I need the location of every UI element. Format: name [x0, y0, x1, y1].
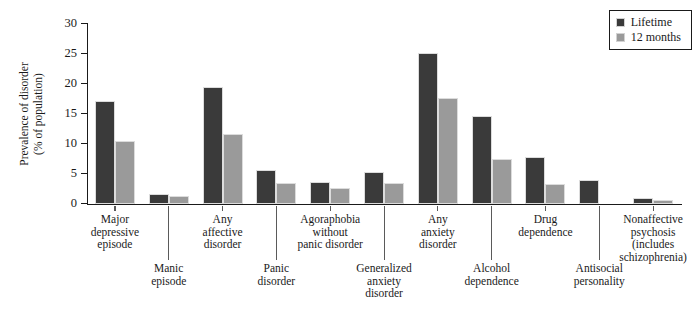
category-label-line: disorder	[203, 238, 243, 251]
category-label-line: Alcohol	[464, 262, 518, 275]
y-axis-tick-label: 15	[65, 106, 78, 121]
y-axis-title-line-2: (% of population)	[31, 62, 45, 165]
category-tick-stem	[330, 206, 331, 211]
bar-12-months	[438, 98, 458, 204]
x-axis-category-label: Nonaffectivepsychosis(includesschizophre…	[619, 213, 687, 263]
bar-group	[203, 24, 243, 204]
category-label-line: Panic	[258, 262, 296, 275]
chart-legend: Lifetime12 months	[609, 10, 692, 50]
category-tick-stem	[653, 206, 654, 211]
y-axis-tick: 0	[81, 203, 88, 204]
legend-label: Lifetime	[631, 15, 672, 30]
bar-group	[472, 24, 512, 204]
category-tick-stem	[168, 206, 169, 260]
category-label-line: Any	[203, 213, 243, 226]
legend-swatch-icon	[616, 18, 625, 27]
bar-12-months	[169, 196, 189, 204]
category-label-line: Antisocial	[574, 262, 625, 275]
bar-lifetime	[95, 101, 115, 204]
legend-item: Lifetime	[616, 15, 681, 30]
bar-lifetime	[418, 53, 438, 204]
bar-lifetime	[310, 182, 330, 204]
category-tick-stem	[222, 206, 223, 211]
category-label-line: disorder	[356, 287, 412, 300]
category-label-line: depressive	[91, 226, 140, 239]
bar-lifetime	[472, 116, 492, 204]
legend-label: 12 months	[631, 30, 681, 45]
category-label-line: (includes	[619, 238, 687, 251]
bar-lifetime	[364, 172, 384, 204]
x-axis-category-label: Generalizedanxietydisorder	[356, 262, 412, 300]
bar-lifetime	[633, 198, 653, 204]
bar-12-months	[492, 159, 512, 204]
y-axis-tick-label: 20	[65, 76, 78, 91]
y-axis-tick-label: 30	[65, 16, 78, 31]
x-axis-category-label: Antisocialpersonality	[574, 262, 625, 287]
category-tick-stem	[491, 206, 492, 260]
category-tick-stem	[276, 206, 277, 260]
category-label-line: anxiety	[419, 226, 457, 239]
category-label-line: schizophrenia)	[619, 251, 687, 264]
category-label-line: without	[297, 226, 362, 239]
bar-12-months	[276, 183, 296, 204]
legend-item: 12 months	[616, 30, 681, 45]
category-tick-stem	[384, 206, 385, 260]
y-axis-tick: 15	[81, 113, 88, 114]
category-label-line: disorder	[419, 238, 457, 251]
category-tick-stem	[114, 206, 115, 211]
x-axis-category-label: Anyanxietydisorder	[419, 213, 457, 251]
y-axis-tick: 30	[81, 23, 88, 24]
category-label-line: episode	[151, 275, 186, 288]
bar-group	[149, 24, 189, 204]
bar-12-months	[384, 183, 404, 204]
y-axis-tick: 20	[81, 83, 88, 84]
bar-group	[418, 24, 458, 204]
y-axis-title: Prevalence of disorder (% of population)	[14, 24, 48, 204]
category-label-line: Any	[419, 213, 457, 226]
bar-group	[579, 24, 619, 204]
bar-lifetime	[149, 194, 169, 204]
plot-area: 051015202530	[88, 24, 680, 204]
y-axis-tick-label: 25	[65, 46, 78, 61]
category-tick-stem	[545, 206, 546, 211]
x-axis-category-label: Alcoholdependence	[464, 262, 518, 287]
category-label-line: Drug	[518, 213, 572, 226]
y-axis-tick-label: 10	[65, 136, 78, 151]
category-label-line: panic disorder	[297, 238, 362, 251]
bar-group	[525, 24, 565, 204]
bar-12-months	[545, 184, 565, 204]
y-axis-line	[87, 24, 88, 205]
bar-group	[633, 24, 673, 204]
x-axis-category-label: Manicepisode	[151, 262, 186, 287]
bar-12-months	[223, 134, 243, 204]
bar-12-months	[330, 188, 350, 204]
legend-swatch-icon	[616, 33, 625, 42]
category-label-line: psychosis	[619, 226, 687, 239]
bar-group	[364, 24, 404, 204]
bar-12-months	[115, 141, 135, 204]
category-tick-stem	[437, 206, 438, 211]
bar-group	[95, 24, 135, 204]
category-tick-stem	[599, 206, 600, 260]
bar-lifetime	[525, 157, 545, 204]
bar-12-months	[653, 200, 673, 204]
y-axis-tick-label: 0	[71, 196, 77, 211]
y-axis-tick: 5	[81, 173, 88, 174]
category-label-line: disorder	[258, 275, 296, 288]
category-label-line: affective	[203, 226, 243, 239]
prevalence-of-disorder-bar-chart: Prevalence of disorder (% of population)…	[0, 0, 700, 330]
category-label-line: Agoraphobia	[297, 213, 362, 226]
y-axis-tick: 25	[81, 53, 88, 54]
x-axis-category-label: Agoraphobiawithoutpanic disorder	[297, 213, 362, 251]
bar-lifetime	[256, 170, 276, 204]
category-label-line: personality	[574, 275, 625, 288]
bar-lifetime	[203, 87, 223, 204]
y-axis-tick-label: 5	[71, 166, 77, 181]
category-label-line: Nonaffective	[619, 213, 687, 226]
category-label-line: Generalized	[356, 262, 412, 275]
x-axis-category-label: Anyaffectivedisorder	[203, 213, 243, 251]
category-label-line: anxiety	[356, 275, 412, 288]
category-label-line: episode	[91, 238, 140, 251]
bar-lifetime	[579, 180, 599, 204]
x-axis-category-label: Drugdependence	[518, 213, 572, 238]
